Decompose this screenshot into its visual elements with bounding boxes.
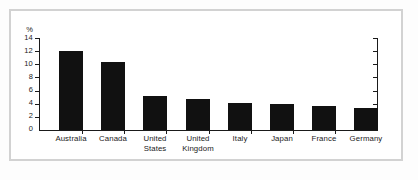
bar-united-states[interactable] — [143, 96, 167, 130]
x-label-line1: United — [143, 134, 166, 143]
bar-australia[interactable] — [59, 51, 83, 130]
y-tick-label: 10 — [5, 60, 33, 68]
y-tick-label: 4 — [5, 99, 33, 107]
y-tick-label: 14 — [5, 34, 33, 42]
bar-united-kingdom[interactable] — [186, 99, 210, 130]
x-label-line1: France — [312, 134, 337, 143]
bar-italy[interactable] — [228, 103, 252, 130]
y-tick-label: 8 — [5, 73, 33, 81]
y-tick-label: 2 — [5, 112, 33, 120]
x-label-germany: Germany — [334, 134, 398, 144]
x-label-line1: Japan — [271, 134, 293, 143]
bar-canada[interactable] — [101, 62, 125, 130]
bar-germany[interactable] — [354, 108, 378, 130]
plot-area — [40, 38, 378, 130]
x-label-line1: Italy — [233, 134, 248, 143]
x-label-line2: Kingdom — [166, 144, 230, 154]
y-tick-label: 12 — [5, 47, 33, 55]
x-label-line1: United — [186, 134, 209, 143]
x-axis-category-labels: Australia Canada United States United Ki… — [40, 134, 378, 162]
x-label-line1: Germany — [350, 134, 383, 143]
y-tick-label: 6 — [5, 86, 33, 94]
y-tick-label: 0 — [5, 125, 33, 133]
y-axis-tick-labels: 14 12 10 8 6 4 2 0 — [2, 0, 33, 180]
chart-figure: % 14 12 10 8 6 4 2 0 — [0, 0, 418, 180]
bar-japan[interactable] — [270, 104, 294, 130]
bar-france[interactable] — [312, 106, 336, 130]
